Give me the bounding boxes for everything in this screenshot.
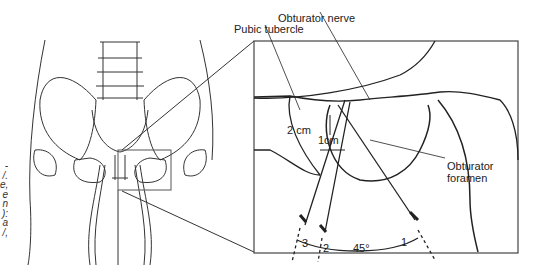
label-needle-1: 1 <box>401 237 407 248</box>
label-angle-45: 45° <box>353 243 370 254</box>
label-obturator-foramen-line1: Obturator <box>447 161 493 172</box>
pelvis-illustration <box>0 0 537 273</box>
caption-fragment: - /. e, e n ): a /, <box>0 161 8 237</box>
label-2cm: 2 cm <box>287 125 311 136</box>
label-obturator-foramen-line2: foramen <box>447 173 487 184</box>
caption-line: /, <box>0 228 8 238</box>
label-needle-3: 3 <box>302 238 308 249</box>
label-pubic-tubercle: Pubic tubercle <box>234 24 304 35</box>
label-needle-2: 2 <box>323 243 329 254</box>
label-1cm: 1cm <box>318 135 339 146</box>
